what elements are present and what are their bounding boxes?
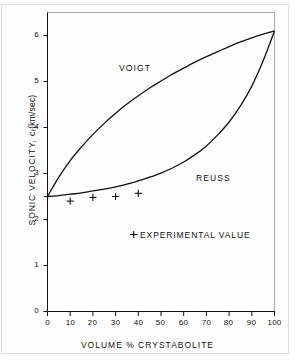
figure-canvas: 0 1 2 3 4 5 6 0 10 20 30 40 50 60 70 80 …	[0, 0, 295, 361]
x-tick-label-60: 60	[173, 318, 194, 327]
experimental-value-markers	[44, 190, 142, 205]
x-tick-label-40: 40	[128, 318, 149, 327]
y-axis-title-subscript: ℓ	[30, 129, 37, 131]
y-axis-title-units: (km/sec)	[27, 95, 37, 129]
y-tick-label-0: 0	[25, 306, 39, 315]
y-tick-label-6: 6	[25, 30, 39, 39]
x-tick-label-10: 10	[60, 318, 81, 327]
legend-experimental-value-label: EXPERIMENTAL VALUE	[140, 230, 251, 240]
x-tick-label-100: 100	[264, 318, 285, 327]
x-tick-label-30: 30	[105, 318, 126, 327]
x-tick-label-50: 50	[150, 318, 171, 327]
voigt-label: VOIGT	[119, 63, 151, 73]
x-tick-label-0: 0	[37, 318, 58, 327]
reuss-label: REUSS	[196, 173, 231, 183]
x-tick-label-20: 20	[82, 318, 103, 327]
x-tick-label-80: 80	[218, 318, 239, 327]
x-tick-label-70: 70	[196, 318, 217, 327]
x-tick-marks	[48, 312, 275, 317]
y-axis-title: SONIC VELOCITY, cℓ(km/sec)	[27, 50, 37, 270]
x-tick-label-90: 90	[241, 318, 262, 327]
voigt-curve	[48, 31, 275, 197]
y-axis-title-main: SONIC VELOCITY, c	[27, 131, 37, 226]
chart-plot-area	[0, 0, 295, 361]
legend-plus-icon	[130, 231, 138, 238]
y-tick-marks	[44, 36, 48, 312]
reuss-curve	[48, 31, 275, 197]
x-axis-title: VOLUME % CRYSTABOLITE	[0, 340, 295, 350]
axes	[48, 12, 276, 312]
